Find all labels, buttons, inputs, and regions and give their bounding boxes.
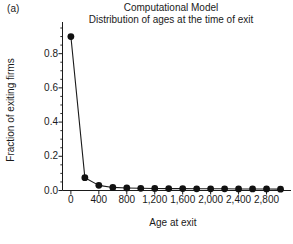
figure-panel: (a) Computational Model Distribution of … — [0, 0, 293, 244]
x-tick-label: 2,400 — [226, 194, 251, 205]
x-tick-label: 800 — [118, 194, 135, 205]
x-tick-label: 2,000 — [198, 194, 223, 205]
x-tick-label: 1,600 — [170, 194, 195, 205]
x-tick-label: 400 — [90, 194, 107, 205]
x-tick-label: 2,800 — [254, 194, 279, 205]
x-tick-label: 0 — [68, 194, 74, 205]
x-tick-label: 1,200 — [142, 194, 167, 205]
x-tick-label-group: 04008001,2001,6002,0002,4002,800 — [0, 0, 293, 244]
